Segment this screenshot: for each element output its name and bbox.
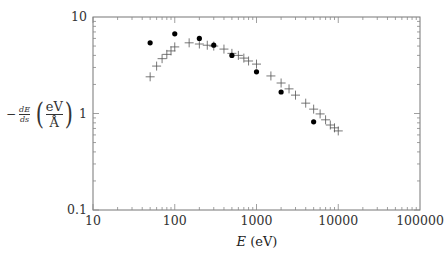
y-label-minus: − bbox=[6, 107, 16, 121]
y-tick-label: 0.1 bbox=[67, 202, 87, 217]
data-point-dot bbox=[197, 36, 202, 41]
data-point-dot bbox=[148, 40, 153, 45]
data-point-cross bbox=[185, 38, 194, 47]
x-tick-label: 10 bbox=[85, 213, 101, 228]
data-point-cross bbox=[301, 99, 310, 108]
x-tick-label: 100000 bbox=[396, 213, 444, 228]
data-point-cross bbox=[266, 71, 275, 80]
y-label-paren-close: ) bbox=[65, 99, 73, 129]
data-point-dot bbox=[279, 89, 284, 94]
y-tick-label: 10 bbox=[71, 9, 87, 24]
data-point-cross bbox=[158, 54, 167, 63]
data-point-cross bbox=[152, 62, 161, 71]
data-point-cross bbox=[285, 84, 294, 93]
data-point-cross bbox=[309, 105, 318, 114]
y-label-paren-open: ( bbox=[36, 99, 44, 129]
data-point-dot bbox=[172, 31, 177, 36]
data-point-cross bbox=[146, 72, 155, 81]
data-point-dot bbox=[311, 119, 316, 124]
y-label-unit: eV Å bbox=[46, 99, 63, 130]
data-point-dot bbox=[211, 43, 216, 48]
data-point-cross bbox=[234, 51, 243, 60]
y-label-derivative: dE ds bbox=[19, 105, 30, 124]
data-point-cross bbox=[252, 60, 261, 69]
data-point-dot bbox=[229, 53, 234, 58]
x-tick-label: 1000 bbox=[241, 213, 273, 228]
plot-frame bbox=[93, 17, 420, 210]
data-point-cross bbox=[170, 42, 179, 51]
x-tick-label: 100 bbox=[163, 213, 187, 228]
data-point-cross bbox=[277, 79, 286, 88]
series-dots bbox=[148, 31, 317, 124]
data-point-cross bbox=[291, 91, 300, 100]
data-point-cross bbox=[316, 109, 325, 118]
data-point-cross bbox=[219, 45, 228, 54]
y-axis-label: − dE ds ( eV Å ) bbox=[6, 96, 86, 132]
tick-labels: 101001000100001000000.1110 bbox=[67, 9, 444, 228]
x-axis-label: E (eV) bbox=[236, 234, 278, 249]
data-point-cross bbox=[203, 41, 212, 50]
axis-ticks bbox=[93, 17, 420, 210]
data-point-cross bbox=[321, 115, 330, 124]
data-point-dot bbox=[254, 69, 259, 74]
x-tick-label: 10000 bbox=[318, 213, 358, 228]
